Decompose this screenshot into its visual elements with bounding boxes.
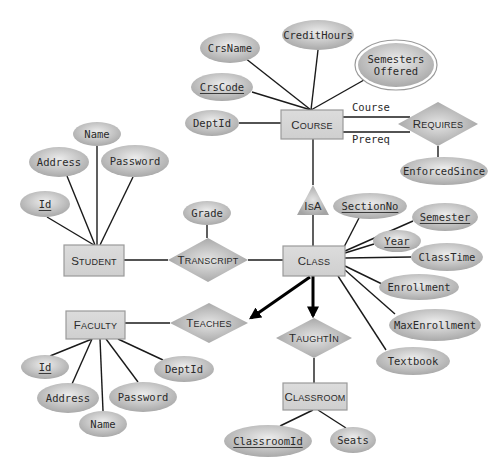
attribute-label: Semester: [420, 211, 471, 223]
entity-classroom[interactable]: CLASSROOM: [283, 383, 347, 410]
attribute-label: Password: [118, 391, 169, 403]
attribute-semestersoffered[interactable]: SemestersOffered: [355, 40, 437, 90]
connector-line: [311, 50, 318, 110]
attribute-seats[interactable]: Seats: [330, 427, 376, 453]
connector-line: [47, 217, 94, 245]
attribute-label: Enrollment: [387, 281, 450, 293]
isa-label: ISA: [304, 200, 322, 212]
attribute-student-address[interactable]: Address: [29, 147, 89, 177]
connector-line: [245, 58, 311, 110]
attribute-label: SectionNo: [342, 200, 399, 212]
attribute-student-name[interactable]: Name: [73, 122, 121, 146]
role-course-label: Course: [352, 101, 390, 113]
role-prereq-label: Prereq: [352, 133, 390, 145]
entity-faculty[interactable]: FACULTY: [66, 311, 125, 339]
entity-label: CLASS: [298, 255, 330, 267]
attribute-faculty-name[interactable]: Name: [79, 411, 127, 437]
connector-line: [118, 339, 163, 360]
attribute-course-deptid[interactable]: DeptId: [185, 110, 239, 136]
attribute-label: DeptId: [193, 117, 231, 129]
entity-label: FACULTY: [74, 319, 117, 331]
attribute-enforcedsince[interactable]: EnforcedSince: [400, 157, 488, 185]
attribute-grade[interactable]: Grade: [183, 201, 231, 225]
relationship-label: TRANSCRIPT: [177, 254, 238, 266]
connector-line: [100, 177, 133, 245]
attribute-crsname[interactable]: CrsName: [200, 33, 260, 63]
relationship-label: REQUIRES: [413, 118, 463, 130]
arrow-edge: [251, 277, 310, 318]
attribute-label: Name: [90, 418, 115, 430]
attribute-maxenrollment[interactable]: MaxEnrollment: [389, 309, 481, 341]
isa-triangle[interactable]: ISA: [297, 185, 329, 215]
attribute-label: Offered: [374, 65, 418, 77]
attribute-student-password[interactable]: Password: [101, 145, 169, 177]
connector-line: [67, 176, 95, 245]
attribute-enrollment[interactable]: Enrollment: [379, 274, 459, 300]
attribute-label: ClassTime: [419, 251, 476, 263]
attribute-label: ClassroomId: [233, 435, 303, 447]
attribute-label: Seats: [337, 434, 369, 446]
attribute-label: DeptId: [165, 363, 203, 375]
entity-label: CLASSROOM: [284, 391, 345, 403]
attribute-faculty-deptid[interactable]: DeptId: [154, 356, 214, 382]
attribute-crscode[interactable]: CrsCode: [191, 73, 253, 101]
attribute-classtime[interactable]: ClassTime: [411, 243, 483, 271]
attribute-label: CreditHours: [283, 29, 353, 41]
attribute-label: Grade: [191, 207, 223, 219]
relationship-requires[interactable]: REQUIRES: [398, 102, 478, 146]
attribute-label: MaxEnrollment: [394, 319, 476, 331]
attribute-label: Address: [37, 156, 81, 168]
attribute-label: Id: [39, 361, 52, 373]
relationship-label: TAUGHTIN: [289, 332, 339, 344]
attribute-label: Year: [384, 235, 409, 247]
connector-line: [318, 410, 346, 428]
attribute-classroomid[interactable]: ClassroomId: [224, 425, 312, 457]
attribute-faculty-id[interactable]: Id: [21, 355, 69, 379]
attribute-label: CrsCode: [200, 81, 244, 93]
attribute-label: EnforcedSince: [403, 165, 485, 177]
attribute-label: Name: [84, 128, 109, 140]
connector-line: [345, 257, 411, 258]
attribute-label: Password: [110, 155, 161, 167]
entity-course[interactable]: COURSE: [281, 110, 343, 139]
attribute-semester[interactable]: Semester: [412, 203, 478, 231]
connector-line: [343, 218, 359, 249]
attribute-label: Semesters: [368, 53, 425, 65]
connector-line: [100, 339, 103, 411]
er-diagram-canvas: CrsNameCreditHoursSemestersOfferedCrsCod…: [0, 0, 504, 475]
entity-class[interactable]: CLASS: [283, 246, 345, 276]
attribute-label: CrsName: [208, 42, 252, 54]
entity-label: COURSE: [291, 119, 333, 131]
attribute-label: Id: [39, 198, 52, 210]
attribute-faculty-password[interactable]: Password: [109, 382, 177, 412]
relationship-transcript[interactable]: TRANSCRIPT: [168, 238, 248, 282]
connector-line: [252, 92, 311, 110]
relationship-teaches[interactable]: TEACHES: [170, 303, 248, 343]
attribute-label: Textbook: [388, 355, 439, 367]
attribute-credithours[interactable]: CreditHours: [282, 20, 354, 50]
relationship-taughtin[interactable]: TAUGHTIN: [276, 318, 352, 358]
attribute-sectionno[interactable]: SectionNo: [333, 193, 407, 219]
entity-label: STUDENT: [71, 255, 117, 267]
shapes-layer: CrsNameCreditHoursSemestersOfferedCrsCod…: [20, 20, 488, 457]
attribute-year[interactable]: Year: [373, 230, 421, 252]
relationship-label: TEACHES: [186, 317, 231, 329]
attribute-student-id[interactable]: Id: [20, 191, 70, 217]
attribute-label: Address: [46, 392, 90, 404]
connector-line: [280, 410, 313, 426]
attribute-textbook[interactable]: Textbook: [376, 347, 450, 375]
entity-student[interactable]: STUDENT: [64, 245, 124, 276]
attribute-faculty-address[interactable]: Address: [37, 383, 99, 413]
